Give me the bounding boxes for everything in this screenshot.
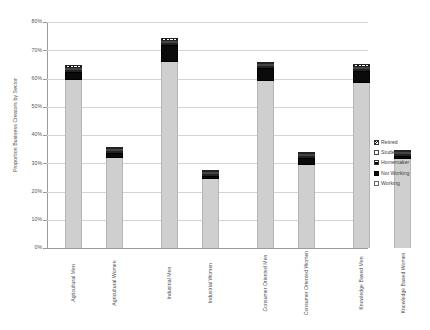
bar-stack[interactable]: [202, 170, 219, 248]
y-tick-mark: [43, 79, 47, 80]
bar-segment-not-working[interactable]: [257, 68, 274, 81]
y-tick-label: 80%: [2, 19, 42, 24]
x-axis-label-text: Industrial Men: [166, 267, 172, 300]
legend-item[interactable]: Working: [374, 179, 430, 189]
gridline-50: [47, 107, 368, 108]
bar-segment-not-working[interactable]: [353, 71, 370, 82]
legend-item-label: Not Working: [381, 171, 409, 176]
x-axis-label-text: Knowledge Based Women: [399, 253, 405, 314]
legend-item[interactable]: Homemaker: [374, 158, 430, 168]
plot-area: [47, 22, 368, 248]
y-tick-label: 20%: [2, 189, 42, 194]
y-tick-mark: [43, 220, 47, 221]
bar-segment-not-working[interactable]: [161, 45, 178, 62]
legend-swatch-icon: [374, 150, 379, 155]
y-tick-label: 0%: [2, 245, 42, 250]
x-axis-label: Industrial Men: [163, 252, 175, 314]
bar-segment-working[interactable]: [353, 83, 370, 248]
x-axis-label-text: Agricultural Men: [70, 264, 76, 302]
x-axis-label-text: Knowledge Based Men: [358, 256, 364, 309]
chart-legend: RetiredStudentHomemakerNot WorkingWorkin…: [374, 137, 430, 189]
x-axis-label: Industrial Women: [204, 252, 216, 314]
y-tick-mark: [43, 248, 47, 249]
legend-item-label: Retired: [381, 140, 398, 145]
bar-stack[interactable]: [257, 62, 274, 248]
gridline-40: [47, 135, 368, 136]
y-tick-label: 40%: [2, 132, 42, 137]
y-tick-label: 30%: [2, 161, 42, 166]
y-tick-mark: [43, 107, 47, 108]
bar-stack[interactable]: [65, 65, 82, 248]
legend-item[interactable]: Retired: [374, 137, 430, 147]
y-tick-mark: [43, 50, 47, 51]
x-axis-label-text: Consumer Oriented Women: [303, 251, 309, 315]
legend-swatch-icon: [374, 181, 379, 186]
x-axis-label-text: Industrial Women: [207, 263, 213, 303]
legend-item-label: Homemaker: [381, 160, 409, 165]
x-axis-label: Knowledge Based Women: [396, 252, 408, 314]
y-tick-mark: [43, 192, 47, 193]
y-tick-mark: [43, 163, 47, 164]
gridline-0: [47, 248, 368, 249]
y-tick-label: 10%: [2, 217, 42, 222]
y-tick-mark: [43, 135, 47, 136]
x-axis-label: Consumer Oriented Men: [259, 252, 271, 314]
legend-item-label: Student: [381, 150, 399, 155]
bar-segment-working[interactable]: [202, 179, 219, 248]
y-tick-label: 70%: [2, 48, 42, 53]
bar-stack[interactable]: [161, 38, 178, 248]
bar-segment-not-working[interactable]: [65, 72, 82, 80]
legend-item-label: Working: [381, 181, 400, 186]
x-axis-label-text: Consumer Oriented Men: [262, 255, 268, 312]
gridline-70: [47, 50, 368, 51]
bar-segment-working[interactable]: [65, 80, 82, 248]
legend-item[interactable]: Not Working: [374, 168, 430, 178]
bar-segment-working[interactable]: [106, 158, 123, 248]
bar-segment-working[interactable]: [257, 81, 274, 248]
legend-swatch-icon: [374, 140, 379, 145]
legend-item[interactable]: Student: [374, 147, 430, 157]
bar-segment-working[interactable]: [298, 165, 315, 248]
bar-stack[interactable]: [298, 152, 315, 248]
y-tick-mark: [43, 22, 47, 23]
bar-segment-working[interactable]: [161, 62, 178, 248]
legend-swatch-icon: [374, 160, 379, 165]
gridline-80: [47, 22, 368, 23]
x-axis-label-text: Agricultural Women: [111, 260, 117, 305]
x-axis-label: Consumer Oriented Women: [300, 252, 312, 314]
bar-stack[interactable]: [353, 64, 370, 248]
y-tick-label: 50%: [2, 104, 42, 109]
bar-stack[interactable]: [106, 147, 123, 248]
legend-swatch-icon: [374, 171, 379, 176]
gridline-30: [47, 163, 368, 164]
x-axis-label: Agricultural Men: [67, 252, 79, 314]
stacked-bar-chart: Proportion Business Creators by Sector 8…: [0, 0, 430, 330]
y-axis-ticks: 80%70%60%50%40%30%20%10%0%: [0, 0, 42, 330]
x-axis-label: Knowledge Based Men: [355, 252, 367, 314]
gridline-60: [47, 79, 368, 80]
x-axis-label: Agricultural Women: [108, 252, 120, 314]
y-tick-label: 60%: [2, 76, 42, 81]
